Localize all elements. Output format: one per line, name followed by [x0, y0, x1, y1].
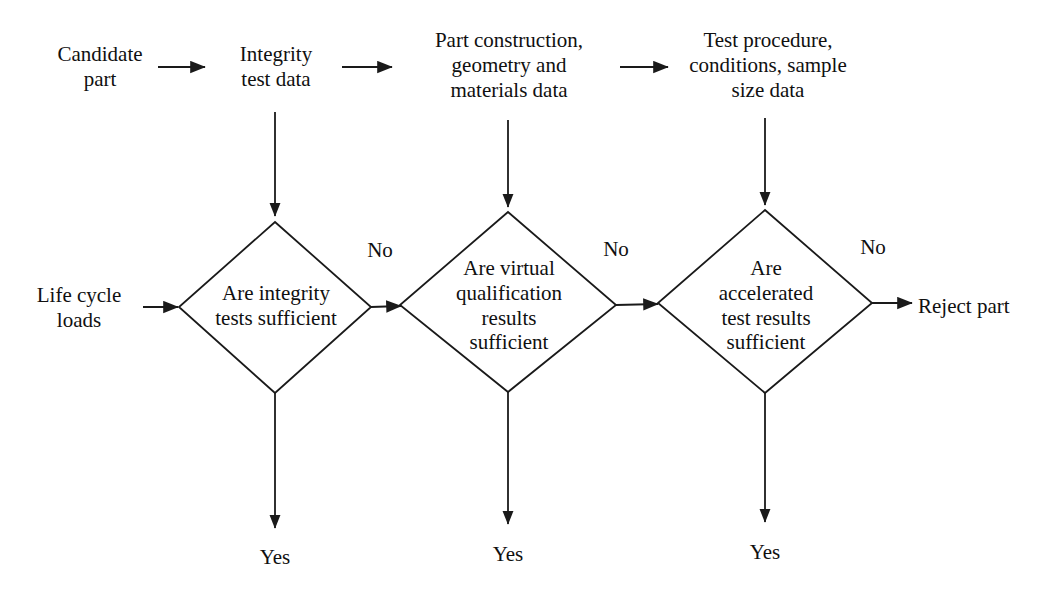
decision-text-virtual-qualification: Are virtual qualification results suffic…: [424, 256, 594, 355]
node-integrity-test-data: Integrity test data: [215, 42, 337, 92]
node-test-procedure-data: Test procedure, conditions, sample size …: [668, 28, 868, 102]
edge-label-yes-integrity: Yes: [247, 545, 303, 570]
edge-label-yes-virtual-qualification: Yes: [480, 542, 536, 567]
decision-text-accelerated-test: Are accelerated test results sufficient: [682, 256, 850, 355]
decision-text-integrity: Are integrity tests sufficient: [183, 281, 369, 331]
node-reject-part: Reject part: [918, 294, 1048, 319]
node-life-cycle-loads: Life cycle loads: [18, 283, 140, 333]
node-part-construction-data: Part construction, geometry and material…: [398, 28, 620, 102]
node-candidate-part: Candidate part: [40, 42, 160, 92]
edge-label-yes-accelerated-test: Yes: [737, 540, 793, 565]
arrow-integrity-no: [371, 306, 401, 307]
flowchart-canvas: Candidate part Integrity test data Part …: [0, 0, 1058, 603]
edge-label-no-accelerated-test: No: [845, 235, 901, 260]
arrow-virtual-no: [616, 304, 658, 305]
edge-label-no-virtual-qualification: No: [588, 237, 644, 262]
edge-label-no-integrity: No: [352, 238, 408, 263]
